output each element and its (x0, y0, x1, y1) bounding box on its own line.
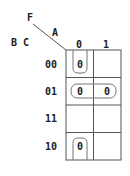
row-header-01: 01 (45, 87, 57, 97)
function-label: F (27, 13, 33, 23)
kmap-grid (0, 0, 130, 176)
col-header-1: 1 (103, 40, 109, 50)
cell-10-0: 0 (77, 142, 83, 152)
row-header-11: 11 (45, 114, 57, 124)
col-header-0: 0 (76, 40, 82, 50)
col-var-label: A (52, 28, 58, 38)
row-header-00: 00 (45, 60, 57, 70)
cell-00-0: 0 (77, 60, 83, 70)
cell-01-1: 0 (104, 87, 110, 97)
diagonal-divider (33, 24, 66, 50)
cell-01-0: 0 (77, 87, 83, 97)
row-header-10: 10 (45, 142, 57, 152)
row-var-label: B C (11, 38, 29, 48)
